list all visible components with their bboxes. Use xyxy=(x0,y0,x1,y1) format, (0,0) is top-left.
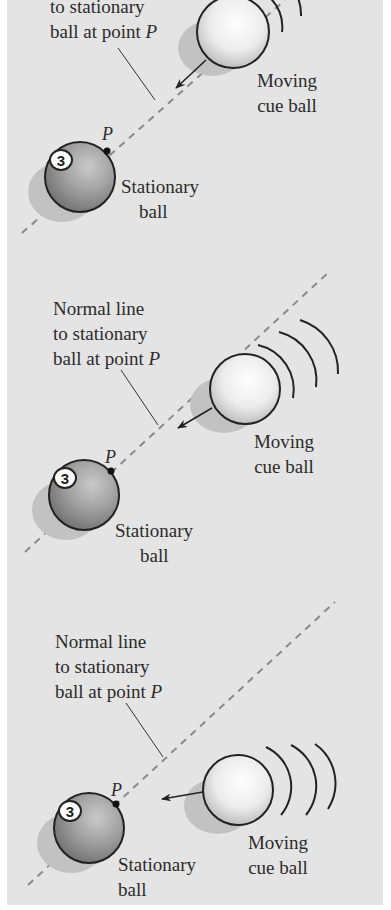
motion-arc xyxy=(315,744,335,809)
moving-cue-ball-label: Moving cue ball xyxy=(245,429,323,479)
point-variable: P xyxy=(151,681,163,702)
normal-label-line-3: ball at point P xyxy=(55,679,162,704)
stationary-label-line-1: Stationary xyxy=(115,518,193,543)
ball-number-3: 3 xyxy=(66,803,74,820)
billiard-normal-line-figure: 3 3 3 xyxy=(0,0,391,910)
ball-number-3: 3 xyxy=(61,470,69,487)
moving-label-line-2: cue ball xyxy=(252,93,322,118)
leader-line xyxy=(118,48,155,100)
cue-ball xyxy=(203,755,273,825)
normal-line-label: Normal line to stationary ball at point … xyxy=(55,629,162,704)
moving-cue-ball-label: Moving cue ball xyxy=(252,68,322,118)
normal-label-line-2: to stationary xyxy=(53,321,160,346)
moving-label-line-1: Moving xyxy=(240,830,316,855)
point-p-label: P xyxy=(105,447,116,468)
point-variable: P xyxy=(149,348,161,369)
motion-arc xyxy=(291,745,316,815)
moving-label-line-1: Moving xyxy=(252,68,322,93)
point-p-label: P xyxy=(111,780,122,801)
normal-label-line-3: ball at point P xyxy=(53,346,160,371)
stationary-ball-label: Stationary ball xyxy=(121,174,199,224)
moving-label-line-2: cue ball xyxy=(245,454,323,479)
point-p-marker xyxy=(113,801,120,808)
normal-label-line-2: to stationary xyxy=(50,0,157,19)
leader-line xyxy=(121,370,158,425)
normal-label-prefix: ball at point xyxy=(53,348,149,369)
stationary-ball-label: Stationary ball xyxy=(118,852,196,902)
stationary-label-line-2: ball xyxy=(118,877,196,902)
moving-cue-ball-label: Moving cue ball xyxy=(240,830,316,880)
motion-arc xyxy=(300,320,338,374)
leader-line xyxy=(126,703,163,757)
normal-line-label: Normal line to stationary ball at point … xyxy=(53,296,160,371)
ball-number-3: 3 xyxy=(57,152,65,169)
normal-label-line-3: ball at point P xyxy=(50,19,157,44)
stationary-ball-label: Stationary ball xyxy=(115,518,193,568)
normal-label-line-1: Normal line xyxy=(55,629,162,654)
stationary-label-line-1: Stationary xyxy=(121,174,199,199)
motion-arc xyxy=(298,0,301,16)
normal-label-line-2: to stationary xyxy=(55,654,162,679)
point-variable: P xyxy=(146,21,158,42)
point-p-marker xyxy=(104,148,111,155)
moving-label-line-1: Moving xyxy=(245,429,323,454)
cue-ball xyxy=(197,0,269,68)
stationary-label-line-2: ball xyxy=(115,543,193,568)
normal-label-prefix: ball at point xyxy=(55,681,151,702)
stationary-label-line-2: ball xyxy=(121,199,199,224)
normal-label-line-1: Normal line xyxy=(53,296,160,321)
motion-arc xyxy=(279,332,316,387)
point-p-label: P xyxy=(102,124,113,145)
point-p-marker xyxy=(108,468,115,475)
normal-label-prefix: ball at point xyxy=(50,21,146,42)
normal-line-label: to stationary ball at point P xyxy=(50,0,157,44)
cue-ball xyxy=(210,354,280,424)
stationary-label-line-1: Stationary xyxy=(118,852,196,877)
moving-label-line-2: cue ball xyxy=(240,855,316,880)
